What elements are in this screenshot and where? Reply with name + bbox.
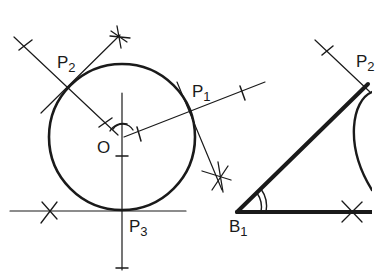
label-p2-right: P2	[356, 53, 375, 73]
label-p3: P3	[129, 218, 148, 238]
label-p1: P1	[192, 83, 211, 103]
star-mark	[110, 26, 130, 48]
tick-mark	[240, 86, 245, 100]
tick-mark	[137, 127, 141, 141]
tick-mark	[322, 46, 333, 55]
label-p2-left: P2	[57, 54, 76, 74]
angle-arc	[257, 193, 261, 212]
inscribed-circle-partial	[354, 92, 372, 190]
label-b1: B1	[229, 218, 248, 238]
label-o: O	[97, 139, 110, 156]
cross-mark	[41, 202, 57, 223]
